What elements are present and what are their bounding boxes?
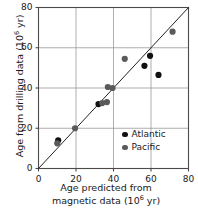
legend-item-pacific: Pacific — [122, 141, 166, 154]
data-point-pacific — [109, 85, 115, 91]
legend-item-atlantic: Atlantic — [122, 128, 166, 141]
y-tick-label: 40 — [11, 84, 33, 93]
x-axis-label-line2-prefix: magnetic data (10 — [52, 195, 140, 206]
y-tick-label: 60 — [11, 43, 33, 52]
data-point-atlantic — [147, 53, 153, 59]
x-axis-label-line2: magnetic data (106 yr) — [18, 195, 194, 208]
data-point-pacific — [169, 29, 175, 35]
y-tick-label: 20 — [11, 124, 33, 133]
x-axis-label-line2-suffix: yr) — [144, 195, 160, 206]
y-tick-label: 80 — [11, 3, 33, 12]
data-point-pacific — [54, 140, 60, 146]
x-axis-label: Age predicted from magnetic data (106 yr… — [18, 182, 194, 207]
legend-label: Pacific — [132, 141, 161, 154]
legend-label: Atlantic — [132, 128, 166, 141]
data-point-pacific — [122, 56, 128, 62]
data-point-pacific — [72, 125, 78, 131]
scatter-plot-figure: Age from drilling data (106 yr) 02040608… — [0, 0, 198, 217]
x-axis-label-line1: Age predicted from — [18, 182, 194, 195]
data-point-pacific — [104, 99, 110, 105]
legend-marker-icon — [122, 132, 128, 138]
legend-marker-icon — [122, 145, 128, 151]
data-point-atlantic — [155, 72, 161, 78]
y-tick-label: 0 — [11, 164, 33, 173]
legend: AtlanticPacific — [122, 128, 166, 154]
data-point-atlantic — [141, 63, 147, 69]
